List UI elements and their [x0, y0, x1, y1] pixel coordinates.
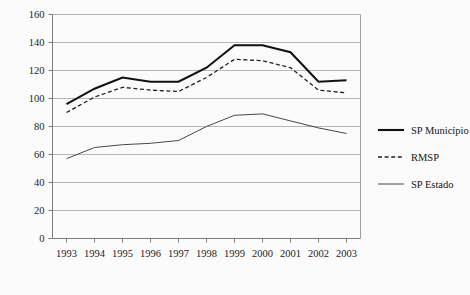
x-tick-label-2002: 2002: [308, 248, 329, 259]
chart-container: 020406080100120140160 199319941995199619…: [0, 0, 470, 295]
legend-label-sp-município: SP Município: [411, 125, 469, 136]
legend-label-rmsp: RMSP: [411, 152, 439, 163]
x-tick-label-2001: 2001: [280, 248, 301, 259]
x-tick-label-1993: 1993: [56, 248, 77, 259]
y-tick-label-40: 40: [34, 177, 45, 188]
x-tick-label-2000: 2000: [252, 248, 273, 259]
y-tick-label-20: 20: [34, 205, 45, 216]
x-tick-label-1994: 1994: [84, 248, 106, 259]
x-axis-tick-labels: 1993199419951996199719981999200020012002…: [56, 248, 357, 259]
y-tick-label-160: 160: [29, 9, 45, 20]
y-tick-label-0: 0: [39, 233, 44, 244]
y-tick-label-80: 80: [34, 121, 45, 132]
x-tick-label-1997: 1997: [168, 248, 189, 259]
x-tick-label-1999: 1999: [224, 248, 245, 259]
y-tick-label-100: 100: [29, 93, 45, 104]
y-tick-label-60: 60: [34, 149, 45, 160]
x-tick-label-1996: 1996: [140, 248, 161, 259]
y-tick-label-120: 120: [29, 65, 45, 76]
line-chart: 020406080100120140160 199319941995199619…: [0, 0, 470, 295]
x-tick-label-1995: 1995: [112, 248, 133, 259]
x-tick-label-2003: 2003: [336, 248, 357, 259]
y-tick-label-140: 140: [29, 37, 45, 48]
x-tick-label-1998: 1998: [196, 248, 217, 259]
legend-label-sp-estado: SP Estado: [411, 179, 454, 190]
